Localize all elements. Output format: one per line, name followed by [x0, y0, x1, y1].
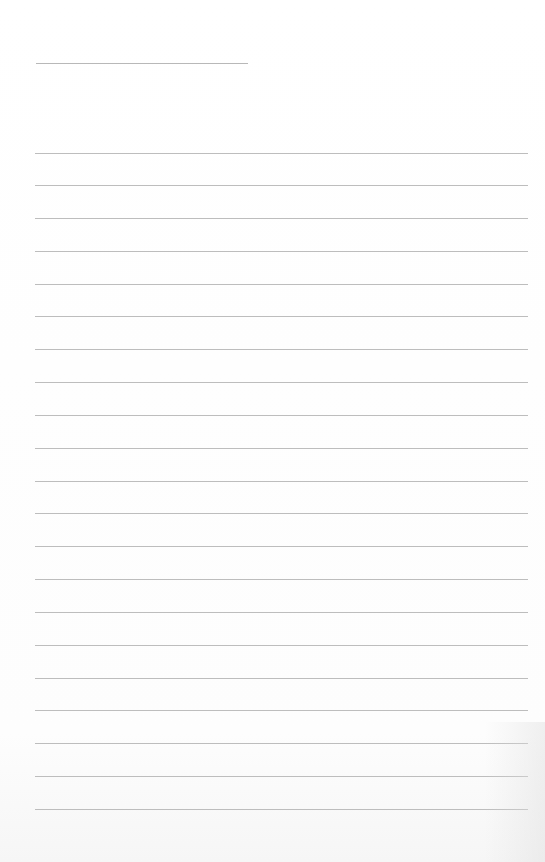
ruled-line: [35, 415, 528, 416]
ruled-line: [35, 546, 528, 547]
ruled-line: [35, 678, 528, 679]
ruled-line: [35, 382, 528, 383]
ruled-line: [35, 349, 528, 350]
ruled-line: [35, 251, 528, 252]
ruled-line: [35, 776, 528, 777]
ruled-line: [35, 316, 528, 317]
ruled-line: [35, 645, 528, 646]
ruled-line: [35, 448, 528, 449]
ruled-line: [35, 481, 528, 482]
ruled-line: [35, 710, 528, 711]
ruled-line: [35, 284, 528, 285]
title-line: [36, 63, 248, 64]
ruled-line: [35, 185, 528, 186]
ruled-line: [35, 579, 528, 580]
ruled-line: [35, 153, 528, 154]
ruled-line: [35, 809, 528, 810]
ruled-line: [35, 218, 528, 219]
ruled-line: [35, 743, 528, 744]
ruled-line: [35, 513, 528, 514]
page-corner-shadow: [485, 722, 545, 862]
lined-page: [0, 0, 545, 862]
ruled-line: [35, 612, 528, 613]
